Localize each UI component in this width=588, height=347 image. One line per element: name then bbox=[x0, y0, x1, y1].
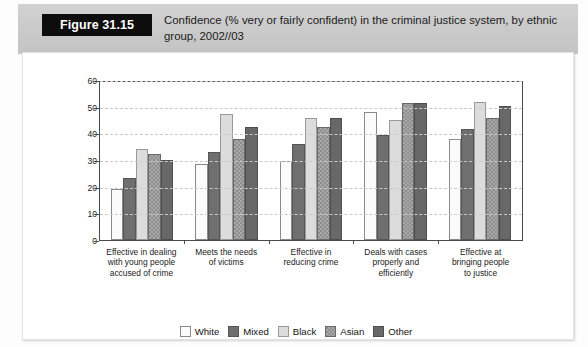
legend-swatch-asian bbox=[325, 326, 336, 337]
bar-asian-1[interactable] bbox=[148, 154, 160, 240]
x-axis-labels: Effective in dealingwith young peopleacc… bbox=[99, 247, 523, 278]
bar-other-4[interactable] bbox=[414, 103, 426, 240]
legend-item-mixed[interactable]: Mixed bbox=[228, 326, 269, 337]
legend-label: Other bbox=[388, 326, 412, 337]
bar-asian-4[interactable] bbox=[402, 103, 414, 240]
y-axis-tick-label: 20 bbox=[61, 183, 97, 193]
legend-label: Black bbox=[293, 326, 316, 337]
gridline bbox=[100, 134, 522, 135]
y-axis-tick-label: 10 bbox=[61, 209, 97, 219]
legend-item-white[interactable]: White bbox=[180, 326, 220, 337]
bar-other-1[interactable] bbox=[161, 160, 173, 240]
legend-swatch-white bbox=[180, 326, 191, 337]
bar-other-2[interactable] bbox=[245, 127, 257, 240]
legend-item-black[interactable]: Black bbox=[278, 326, 316, 337]
legend-swatch-mixed bbox=[228, 326, 239, 337]
y-axis-tick-mark bbox=[94, 134, 99, 135]
bar-black-1[interactable] bbox=[136, 149, 148, 240]
x-axis-label: Meets the needsof victims bbox=[184, 247, 269, 278]
chart-panel: 0102030405060 Effective in dealingwith y… bbox=[22, 52, 574, 340]
figure-number-label: Figure 31.15 bbox=[60, 18, 134, 32]
figure-number-badge: Figure 31.15 bbox=[42, 14, 152, 36]
bar-mixed-2[interactable] bbox=[208, 152, 220, 240]
figure-root: Figure 31.15 Confidence (% very or fairl… bbox=[0, 0, 588, 347]
figure-header-band: Figure 31.15 Confidence (% very or fairl… bbox=[18, 4, 578, 54]
x-axis-tick-mark bbox=[184, 240, 185, 244]
bar-white-3[interactable] bbox=[280, 161, 292, 240]
figure-title: Confidence (% very or fairly confident) … bbox=[164, 13, 584, 44]
bar-asian-5[interactable] bbox=[486, 118, 498, 240]
x-axis-tick-mark bbox=[269, 240, 270, 244]
x-axis-label: Deals with casesproperly andefficiently bbox=[353, 247, 438, 278]
x-axis-tick-mark bbox=[438, 240, 439, 244]
bar-black-4[interactable] bbox=[389, 120, 401, 240]
y-axis-tick-mark bbox=[94, 188, 99, 189]
bar-mixed-3[interactable] bbox=[292, 144, 304, 240]
bar-white-4[interactable] bbox=[364, 112, 376, 240]
gridline bbox=[100, 161, 522, 162]
bar-asian-3[interactable] bbox=[317, 127, 329, 240]
y-axis-tick-mark bbox=[94, 81, 99, 82]
y-axis-tick-label: 40 bbox=[61, 129, 97, 139]
bar-black-2[interactable] bbox=[220, 114, 232, 240]
bar-other-3[interactable] bbox=[330, 118, 342, 240]
legend-item-other[interactable]: Other bbox=[373, 326, 412, 337]
y-axis-tick-label: 50 bbox=[61, 103, 97, 113]
bar-white-2[interactable] bbox=[195, 164, 207, 240]
legend-swatch-other bbox=[373, 326, 384, 337]
legend-swatch-black bbox=[278, 326, 289, 337]
gridline bbox=[100, 188, 522, 189]
bar-black-3[interactable] bbox=[305, 118, 317, 240]
chart-legend: WhiteMixedBlackAsianOther bbox=[61, 326, 531, 337]
legend-label: Mixed bbox=[243, 326, 269, 337]
y-axis-tick-label: 0 bbox=[61, 236, 97, 246]
x-axis-label: Effective in dealingwith young peopleacc… bbox=[99, 247, 184, 278]
bar-black-5[interactable] bbox=[474, 102, 486, 240]
y-axis-tick-label: 30 bbox=[61, 156, 97, 166]
bar-mixed-5[interactable] bbox=[461, 129, 473, 240]
y-axis-tick-mark bbox=[94, 241, 99, 242]
bar-white-5[interactable] bbox=[449, 139, 461, 240]
y-axis-tick-mark bbox=[94, 214, 99, 215]
x-axis-label: Effective inreducing crime bbox=[269, 247, 354, 278]
gridline bbox=[100, 81, 522, 82]
plot-area bbox=[99, 81, 523, 241]
bar-other-5[interactable] bbox=[499, 106, 511, 240]
bar-asian-2[interactable] bbox=[233, 139, 245, 240]
gridline bbox=[100, 214, 522, 215]
legend-label: White bbox=[195, 326, 220, 337]
y-axis-tick-label: 60 bbox=[61, 76, 97, 86]
y-axis-tick-mark bbox=[94, 108, 99, 109]
legend-label: Asian bbox=[340, 326, 364, 337]
gridline bbox=[100, 108, 522, 109]
x-axis-tick-mark bbox=[353, 240, 354, 244]
legend-item-asian[interactable]: Asian bbox=[325, 326, 364, 337]
x-axis-label: Effective atbringing peopleto justice bbox=[438, 247, 523, 278]
y-axis-tick-mark bbox=[94, 161, 99, 162]
bar-chart: 0102030405060 Effective in dealingwith y… bbox=[61, 81, 531, 251]
